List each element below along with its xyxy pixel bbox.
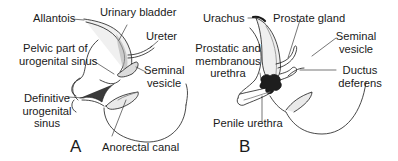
label-definitive-line2: urogenital bbox=[22, 105, 72, 118]
label-allantois: Allantois bbox=[33, 12, 75, 25]
label-ureter: Ureter bbox=[146, 30, 177, 43]
panel-letter-b: B bbox=[239, 138, 250, 156]
embryology-figure: Allantois Urinary bladder Ureter Pelvic … bbox=[0, 0, 398, 161]
label-prostate-gland: Prostate gland bbox=[273, 12, 345, 25]
label-seminal-vesicle-b: Seminal vesicle bbox=[332, 30, 380, 55]
label-prostatic-membranous-urethra: Prostatic and membranous urethra bbox=[191, 42, 265, 80]
label-urinary-bladder: Urinary bladder bbox=[100, 6, 176, 19]
label-definitive-urogenital-sinus: Definitive urogenital sinus bbox=[22, 92, 72, 130]
panel-letter-a: A bbox=[70, 138, 81, 156]
label-ductus-line2: deferens bbox=[336, 77, 384, 90]
label-anorectal-canal: Anorectal canal bbox=[102, 141, 179, 154]
label-urachus: Urachus bbox=[203, 12, 245, 25]
label-pelvic-part-line1: Pelvic part of bbox=[19, 42, 97, 55]
label-pelvic-part: Pelvic part of urogenital sinus bbox=[19, 42, 97, 67]
label-seminal-vesicle-a-line1: Seminal bbox=[144, 64, 184, 77]
label-seminal-vesicle-a: Seminal vesicle bbox=[144, 64, 184, 89]
label-seminal-vesicle-b-line2: vesicle bbox=[332, 43, 380, 56]
label-ductus-deferens: Ductus deferens bbox=[336, 64, 384, 89]
label-seminal-vesicle-b-line1: Seminal bbox=[332, 30, 380, 43]
label-prostatic-line1: Prostatic and bbox=[191, 42, 265, 55]
label-prostatic-line3: urethra bbox=[191, 67, 265, 80]
label-seminal-vesicle-a-line2: vesicle bbox=[144, 77, 184, 90]
label-definitive-line1: Definitive bbox=[22, 92, 72, 105]
label-definitive-line3: sinus bbox=[22, 117, 72, 130]
label-prostatic-line2: membranous bbox=[191, 55, 265, 68]
label-pelvic-part-line2: urogenital sinus bbox=[19, 55, 97, 68]
label-ductus-line1: Ductus bbox=[336, 64, 384, 77]
label-penile-urethra: Penile urethra bbox=[213, 117, 283, 130]
